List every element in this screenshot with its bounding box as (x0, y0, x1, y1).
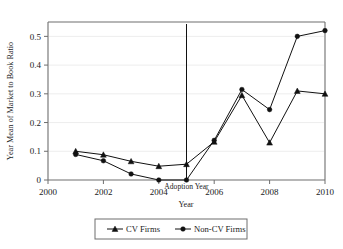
data-point-non-cv-firms (129, 172, 134, 177)
data-point-non-cv-firms (157, 178, 162, 183)
data-point-non-cv-firms (101, 158, 106, 163)
x-tick-label: 2010 (316, 187, 335, 197)
data-point-non-cv-firms (240, 87, 245, 92)
data-point-non-cv-firms (323, 28, 328, 33)
legend-label-0: CV Firms (126, 224, 161, 234)
data-point-non-cv-firms (295, 34, 300, 39)
legend-label-1: Non-CV Firms (194, 224, 246, 234)
y-tick-label: 0.5 (30, 32, 42, 42)
x-tick-label: 2002 (94, 187, 112, 197)
market-to-book-ratio-line-chart: 00.10.20.30.40.5 20002002200420062008201… (0, 0, 343, 249)
data-point-non-cv-firms (73, 152, 78, 157)
y-tick-label: 0.1 (30, 146, 41, 156)
data-point-non-cv-firms (267, 107, 272, 112)
chart-container: 00.10.20.30.40.5 20002002200420062008201… (0, 0, 343, 249)
y-axis-ticks: 00.10.20.30.40.5 (30, 32, 48, 186)
data-point-non-cv-firms (184, 178, 189, 183)
y-tick-label: 0.4 (30, 60, 42, 70)
x-tick-label: 2008 (261, 187, 280, 197)
y-tick-label: 0.2 (30, 118, 41, 128)
y-axis-title: Year Mean of Market to Book Ratio (6, 42, 15, 160)
x-axis-title: Year (178, 200, 193, 209)
adoption-year-label: Adoption Year (164, 182, 209, 191)
chart-legend: CV FirmsNon-CV Firms (95, 219, 247, 239)
circle-icon (181, 227, 186, 232)
y-tick-label: 0.3 (30, 89, 42, 99)
data-point-non-cv-firms (212, 138, 217, 143)
y-tick-label: 0 (37, 175, 42, 185)
x-tick-label: 2000 (39, 187, 58, 197)
